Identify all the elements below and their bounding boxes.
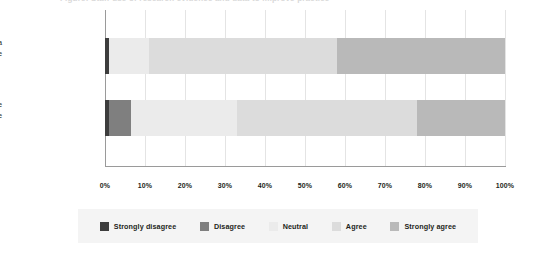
gridline [425,10,426,166]
x-axis-tick-label: 100% [496,182,514,189]
bar-segment [131,100,237,136]
x-axis-tick-label: 30% [218,182,232,189]
x-axis-tick-label: 40% [258,182,272,189]
legend-swatch-icon [200,222,209,231]
category-label: Staff use research evidenceto improve th… [0,100,2,121]
x-axis-tick-labels: 0%10%20%30%40%50%60%70%80%90%100% [105,182,505,196]
legend-item[interactable]: Agree [332,222,367,231]
gridline [345,10,346,166]
legend-swatch-icon [100,222,109,231]
legend-item-label: Strongly agree [404,222,456,231]
bar-segment [149,38,337,74]
legend-swatch-icon [390,222,399,231]
category-label-line: Staff analyse and use data [0,38,2,49]
category-label-line: to improve their practice [0,49,2,60]
x-axis-tick-label: 20% [178,182,192,189]
x-axis-tick-label: 80% [418,182,432,189]
plot-region: 0%10%20%30%40%50%60%70%80%90%100% [105,10,505,166]
bar-segment [237,100,417,136]
gridline [465,10,466,166]
bar-segment [109,38,149,74]
legend-swatch-icon [269,222,278,231]
legend-item-label: Neutral [283,222,308,231]
legend-swatch-icon [332,222,341,231]
legend-item[interactable]: Neutral [269,222,308,231]
chart-legend: Strongly disagreeDisagreeNeutralAgreeStr… [78,209,478,243]
bar-segment [417,100,505,136]
gridline [505,10,506,166]
gridline [385,10,386,166]
gridline [265,10,266,166]
bar-segment [109,100,131,136]
x-axis-tick-label: 60% [338,182,352,189]
bar-segment [337,38,505,74]
category-label-line: to improve their practice [0,111,2,122]
x-axis-tick-label: 0% [100,182,110,189]
gridline [145,10,146,166]
legend-item-label: Disagree [214,222,245,231]
x-axis-tick-label: 90% [458,182,472,189]
legend-item-label: Strongly disagree [114,222,176,231]
x-axis-tick-label: 10% [138,182,152,189]
table-row [105,38,505,74]
gridline [305,10,306,166]
legend-item-label: Agree [346,222,367,231]
category-label: Staff analyse and use datato improve the… [0,38,2,59]
legend-item[interactable]: Strongly agree [390,222,456,231]
gridline [225,10,226,166]
legend-item[interactable]: Disagree [200,222,245,231]
x-axis-line [105,166,506,167]
table-row [105,100,505,136]
gridline [185,10,186,166]
legend-item[interactable]: Strongly disagree [100,222,176,231]
x-axis-tick-label: 50% [298,182,312,189]
category-label-line: Staff use research evidence [0,100,2,111]
x-axis-tick-label: 70% [378,182,392,189]
chart-area: 0%10%20%30%40%50%60%70%80%90%100% Staff … [0,0,555,200]
